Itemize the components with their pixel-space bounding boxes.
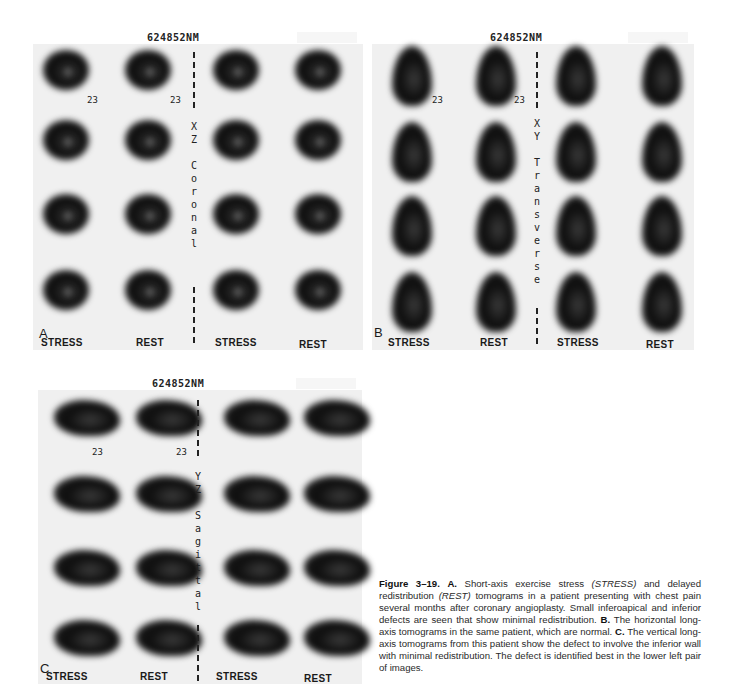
tomogram-slice	[392, 196, 432, 256]
panel-c-sagittal: 624852NM 23 23 Y Z S a g i t t a l C STR…	[38, 378, 362, 684]
cavity	[234, 288, 242, 296]
tomogram-slice	[556, 122, 596, 182]
column-label-stress: STRESS	[216, 671, 258, 682]
tomogram-slice	[304, 476, 370, 512]
cavity	[234, 212, 242, 220]
slice-number: 23	[170, 95, 181, 105]
panel-letter: B	[374, 325, 383, 340]
tomogram-slice	[476, 46, 516, 106]
cavity	[234, 138, 242, 146]
cavity	[146, 212, 154, 220]
faint-date-stamp	[297, 32, 357, 43]
tomogram-slice	[392, 46, 432, 106]
tomogram-slice	[224, 476, 290, 512]
divider-top	[197, 400, 199, 456]
slice-number: 23	[432, 95, 443, 105]
patient-id: 624852NM	[152, 378, 204, 389]
tomogram-slice	[476, 196, 516, 256]
tomogram-slice	[304, 550, 370, 586]
axis-label: X Y T r a n s v e r s e	[531, 117, 543, 286]
column-label-stress: STRESS	[557, 337, 599, 348]
tomogram-slice	[556, 196, 596, 256]
column-label-rest: REST	[304, 673, 332, 684]
cavity	[146, 288, 154, 296]
slice-number: 23	[87, 95, 98, 105]
cavity	[316, 138, 324, 146]
caption-c-label: C.	[615, 626, 625, 637]
cavity	[234, 68, 242, 76]
figure-label: Figure 3–19.	[379, 578, 440, 589]
patient-id: 624852NM	[147, 32, 199, 43]
divider-top	[536, 52, 538, 108]
caption-b-label: B.	[601, 614, 611, 625]
tomogram-slice	[392, 122, 432, 182]
caption-rest-term: (REST)	[439, 590, 471, 601]
tomogram-slice	[476, 272, 516, 332]
slice-number: 23	[176, 447, 187, 457]
cavity	[64, 68, 72, 76]
tomogram-slice	[136, 400, 202, 436]
caption-stress-term: (STRESS)	[592, 578, 637, 589]
tomogram-slice	[556, 46, 596, 106]
column-label-rest: REST	[136, 337, 164, 348]
cavity	[316, 68, 324, 76]
column-label-stress: STRESS	[41, 337, 83, 348]
tomogram-slice	[476, 122, 516, 182]
tomogram-slice	[392, 272, 432, 332]
tomogram-slice	[54, 620, 120, 656]
column-label-rest: REST	[140, 671, 168, 682]
divider-bottom	[197, 625, 199, 681]
tomogram-slice	[224, 550, 290, 586]
column-label-stress: STRESS	[388, 337, 430, 348]
cavity	[64, 138, 72, 146]
divider-bottom	[193, 287, 195, 343]
cavity	[64, 288, 72, 296]
tomogram-slice	[642, 196, 682, 256]
tomogram-slice	[304, 620, 370, 656]
column-label-stress: STRESS	[215, 337, 257, 348]
axis-label: X Z C o r o n a l	[188, 120, 200, 250]
cavity	[64, 212, 72, 220]
tomogram-slice	[54, 476, 120, 512]
tomogram-slice	[54, 550, 120, 586]
column-label-rest: REST	[646, 339, 674, 350]
tomogram-slice	[136, 620, 202, 656]
tomogram-slice	[224, 620, 290, 656]
patient-id: 624852NM	[490, 32, 542, 43]
tomogram-slice	[54, 400, 120, 436]
tomogram-slice	[224, 400, 290, 436]
tomogram-slice	[642, 46, 682, 106]
slice-number: 23	[514, 95, 525, 105]
tomogram-slice	[642, 272, 682, 332]
caption-a-label: A.	[447, 578, 457, 589]
panel-b-transverse: 624852NM 23 23 X Y T r a n s v e r s e B…	[372, 32, 694, 350]
slice-number: 23	[92, 447, 103, 457]
cavity	[146, 138, 154, 146]
tomogram-slice	[642, 122, 682, 182]
figure-caption: Figure 3–19. A. Short-axis exercise stre…	[379, 578, 701, 674]
faint-date-stamp	[296, 378, 356, 389]
divider-bottom	[536, 308, 538, 344]
column-label-stress: STRESS	[46, 671, 88, 682]
cavity	[146, 68, 154, 76]
axis-label: Y Z S a g i t t a l	[192, 470, 204, 613]
cavity	[316, 288, 324, 296]
panel-a-coronal: 624852NM 23 23 X Z C o r o n a l A STRES…	[33, 32, 363, 350]
caption-a-text: Short-axis exercise stress	[465, 578, 585, 589]
tomogram-slice	[556, 272, 596, 332]
column-label-rest: REST	[480, 337, 508, 348]
tomogram-slice	[304, 400, 370, 436]
column-label-rest: REST	[299, 339, 327, 350]
faint-date-stamp	[628, 32, 688, 43]
cavity	[316, 212, 324, 220]
divider-top	[193, 52, 195, 108]
